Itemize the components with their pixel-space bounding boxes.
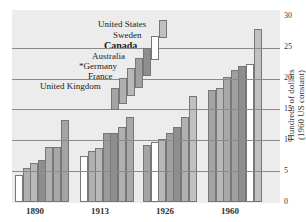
y-tick: 30 [284,11,292,20]
legend-germany: *Germany [79,61,117,71]
legend-swatch [127,68,135,96]
bar [189,96,197,202]
x-label-1926: 1926 [140,206,190,216]
legend-sweden: Sweden [113,30,142,40]
x-label-1913: 1913 [75,206,125,216]
legend-us: United States [98,19,146,29]
legend-swatch [135,58,143,88]
gridline [12,79,280,80]
bar [61,120,69,202]
chart: United States Sweden Canada Australia *G… [0,0,306,222]
bar [126,117,134,202]
gridline [12,140,280,141]
bar [254,29,262,202]
legend-uk: United Kingdom [40,81,101,91]
y-tick: 5 [284,166,288,175]
y-axis-label: Hundreds of dollars(1960 US constant) [286,45,306,165]
legend-swatch [119,78,127,104]
y-tick: 0 [284,197,288,206]
gridline [12,109,280,110]
legend-swatch [159,20,167,38]
x-label-1960: 1960 [205,206,255,216]
gridline [12,171,280,172]
legend-swatch [151,36,159,60]
legend-canada: Canada [104,40,137,51]
legend-australia: Australia [92,51,125,61]
legend-swatch [111,88,119,110]
x-label-1890: 1890 [10,206,60,216]
legend-swatch [143,48,151,76]
